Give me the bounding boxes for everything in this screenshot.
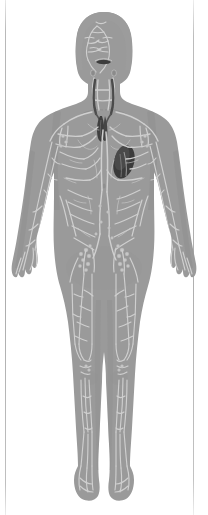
scanned-page [0, 0, 208, 515]
lymphatic-system-illustration [0, 0, 208, 515]
anatomical-figure [0, 0, 208, 515]
